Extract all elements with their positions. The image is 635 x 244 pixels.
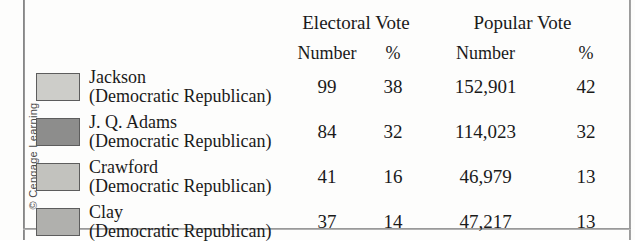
table-sub-header-row: Number % Number % bbox=[33, 34, 623, 64]
cell-popular-number: 114,023 bbox=[422, 121, 549, 143]
candidate-name: Crawford bbox=[89, 158, 290, 176]
cell-electoral-percent: 16 bbox=[364, 166, 422, 188]
page-rule-right bbox=[629, 0, 631, 240]
candidate-name: Clay bbox=[89, 203, 290, 221]
cell-electoral-number: 84 bbox=[290, 121, 364, 143]
column-group-popular-vote: Popular Vote bbox=[422, 12, 623, 34]
column-header-electoral-percent: % bbox=[364, 43, 422, 64]
election-results-table: Electoral Vote Popular Vote Number % Num… bbox=[33, 6, 623, 244]
column-group-electoral-vote: Electoral Vote bbox=[290, 12, 422, 34]
cell-popular-percent: 13 bbox=[549, 166, 623, 188]
color-swatch-adams bbox=[36, 118, 80, 146]
cell-electoral-number: 41 bbox=[290, 166, 364, 188]
table-row: Clay (Democratic Republican) 37 14 47,21… bbox=[33, 199, 623, 244]
cell-popular-percent: 13 bbox=[549, 211, 623, 233]
legend-swatch-cell bbox=[33, 73, 89, 101]
column-header-electoral-number: Number bbox=[290, 43, 364, 64]
candidate-party: (Democratic Republican) bbox=[89, 132, 290, 150]
column-header-popular-percent: % bbox=[549, 43, 623, 64]
candidate-name-cell: J. Q. Adams (Democratic Republican) bbox=[89, 113, 290, 150]
cell-popular-number: 152,901 bbox=[422, 76, 549, 98]
candidate-name: Jackson bbox=[89, 68, 290, 86]
legend-swatch-cell bbox=[33, 118, 89, 146]
legend-swatch-cell bbox=[33, 163, 89, 191]
cell-popular-number: 47,217 bbox=[422, 211, 549, 233]
candidate-party: (Democratic Republican) bbox=[89, 222, 290, 240]
column-header-popular-number: Number bbox=[422, 43, 549, 64]
cell-electoral-number: 99 bbox=[290, 76, 364, 98]
table-group-header-row: Electoral Vote Popular Vote bbox=[33, 6, 623, 34]
cell-popular-number: 46,979 bbox=[422, 166, 549, 188]
candidate-name-cell: Clay (Democratic Republican) bbox=[89, 203, 290, 240]
cell-electoral-number: 37 bbox=[290, 211, 364, 233]
candidate-party: (Democratic Republican) bbox=[89, 87, 290, 105]
page-rule-left bbox=[23, 0, 25, 240]
table-row: Crawford (Democratic Republican) 41 16 4… bbox=[33, 154, 623, 199]
cell-electoral-percent: 38 bbox=[364, 76, 422, 98]
color-swatch-clay bbox=[36, 208, 80, 236]
cell-electoral-percent: 14 bbox=[364, 211, 422, 233]
table-row: J. Q. Adams (Democratic Republican) 84 3… bbox=[33, 109, 623, 154]
color-swatch-crawford bbox=[36, 163, 80, 191]
candidate-name-cell: Jackson (Democratic Republican) bbox=[89, 68, 290, 105]
cell-popular-percent: 32 bbox=[549, 121, 623, 143]
cell-popular-percent: 42 bbox=[549, 76, 623, 98]
legend-swatch-cell bbox=[33, 208, 89, 236]
table-row: Jackson (Democratic Republican) 99 38 15… bbox=[33, 64, 623, 109]
color-swatch-jackson bbox=[36, 73, 80, 101]
candidate-party: (Democratic Republican) bbox=[89, 177, 290, 195]
cell-electoral-percent: 32 bbox=[364, 121, 422, 143]
candidate-name-cell: Crawford (Democratic Republican) bbox=[89, 158, 290, 195]
candidate-name: J. Q. Adams bbox=[89, 113, 290, 131]
